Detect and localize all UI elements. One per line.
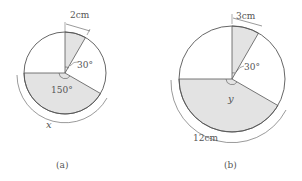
arc-label-12cm: 12cm: [193, 133, 218, 143]
angle-label-30-b: 30°: [244, 62, 260, 72]
sector-diagrams: 2cm 30° 150° x (a) 3cm 30° y 12cm (b): [0, 0, 302, 181]
arc-label-3cm: 3cm: [236, 11, 256, 21]
caption-a: (a): [56, 160, 68, 170]
angle-label-30-a: 30°: [77, 60, 93, 70]
arc-label-2cm: 2cm: [70, 10, 90, 20]
figure-b: 3cm 30° y 12cm (b): [171, 11, 286, 170]
caption-b: (b): [224, 160, 237, 170]
arc-label-x: x: [46, 119, 52, 130]
angle-label-150: 150°: [51, 85, 73, 95]
dimension-2cm: [66, 24, 90, 31]
large-sector-b: [179, 79, 278, 132]
angle-label-y: y: [227, 93, 234, 104]
figure-a: 2cm 30° 150° x (a): [17, 10, 107, 170]
